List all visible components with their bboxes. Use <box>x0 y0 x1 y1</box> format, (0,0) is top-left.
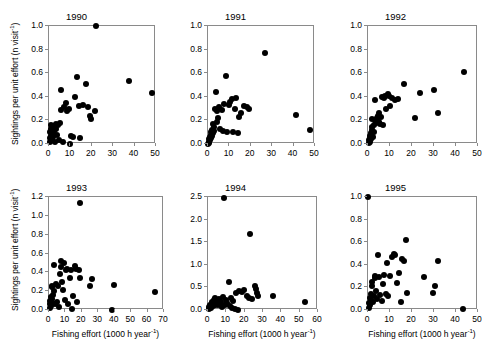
data-point <box>68 133 74 139</box>
data-point <box>212 295 218 301</box>
data-point <box>233 290 239 296</box>
data-point <box>391 251 397 257</box>
data-point <box>47 135 53 141</box>
data-point <box>57 271 63 277</box>
y-tick-label: 0.4 <box>337 259 362 269</box>
data-point <box>63 100 69 106</box>
data-point <box>77 135 83 141</box>
y-axis-title: Sightings per unit effort (n visit-1) <box>10 189 20 311</box>
data-point <box>389 254 395 260</box>
y-tick <box>364 49 367 50</box>
data-point <box>246 295 252 301</box>
plot-area-1994 <box>207 196 317 309</box>
panel-1990: 1990010203040500.00.20.40.60.81.0 <box>0 0 493 354</box>
data-point <box>149 90 155 96</box>
y-tick <box>45 196 48 197</box>
data-point <box>48 126 54 132</box>
y-tick-label: 1.0 <box>337 191 362 201</box>
data-point <box>227 99 233 105</box>
y-tick-label: 0.0 <box>337 138 362 148</box>
x-tick-label: 20 <box>406 314 415 324</box>
data-point <box>58 87 64 93</box>
y-tick <box>364 286 367 287</box>
data-point <box>403 237 409 243</box>
data-point <box>369 127 375 133</box>
data-point <box>211 124 217 130</box>
figure-container: 1990010203040500.00.20.40.60.81.01991010… <box>0 0 493 354</box>
y-tick-label: 0.6 <box>18 248 43 258</box>
data-point <box>54 132 60 138</box>
data-point <box>381 272 387 278</box>
y-tick-label: 0.5 <box>177 281 202 291</box>
data-point <box>209 127 215 133</box>
x-tick-label: 0 <box>46 314 51 324</box>
y-tick-label: 0.8 <box>18 44 43 54</box>
x-tick-label: 10 <box>224 148 233 158</box>
data-point <box>387 103 393 109</box>
panel-1993: 19930102030405060700.00.20.40.60.81.01.2 <box>0 0 493 354</box>
data-point <box>213 300 219 306</box>
data-point <box>371 293 377 299</box>
data-point <box>395 96 401 102</box>
y-tick <box>204 309 207 310</box>
data-point <box>51 128 57 134</box>
y-tick <box>364 196 367 197</box>
data-point <box>374 296 380 302</box>
data-point <box>48 303 54 309</box>
data-point <box>47 129 53 135</box>
data-point <box>80 102 86 108</box>
data-point <box>220 128 226 134</box>
y-tick <box>204 241 207 242</box>
data-point <box>368 130 374 136</box>
y-tick-label: 0.8 <box>337 214 362 224</box>
y-tick <box>364 241 367 242</box>
data-point <box>365 194 371 200</box>
x-tick-label: 50 <box>150 148 159 158</box>
data-point <box>241 103 247 109</box>
data-point <box>224 129 230 135</box>
data-point <box>373 120 379 126</box>
x-tick <box>367 143 368 146</box>
data-point <box>61 260 67 266</box>
x-tick-label: 40 <box>288 148 297 158</box>
x-tick <box>91 143 92 146</box>
y-tick-label: 2.5 <box>177 191 202 201</box>
y-tick-label: 0.8 <box>337 44 362 54</box>
data-point <box>435 110 441 116</box>
data-point <box>208 129 214 135</box>
data-point <box>83 81 89 87</box>
x-tick <box>225 309 226 312</box>
x-tick-label: 60 <box>312 314 321 324</box>
x-tick-label: 10 <box>221 314 230 324</box>
panel-title-1995: 1995 <box>385 182 406 193</box>
x-tick-label: 0 <box>46 148 51 158</box>
data-point <box>76 267 82 273</box>
y-tick-label: 1.2 <box>18 191 43 201</box>
x-tick <box>134 143 135 146</box>
y-tick <box>45 119 48 120</box>
y-tick-label: 0.8 <box>177 44 202 54</box>
data-point <box>212 302 218 308</box>
data-point <box>49 127 55 133</box>
data-point <box>209 299 215 305</box>
y-tick <box>364 219 367 220</box>
data-point <box>207 137 213 143</box>
x-tick <box>280 309 281 312</box>
y-tick <box>204 286 207 287</box>
data-point <box>432 283 438 289</box>
data-point <box>376 110 382 116</box>
y-tick-label: 1.0 <box>18 20 43 30</box>
data-point <box>401 258 407 264</box>
data-point <box>366 140 372 146</box>
x-tick <box>367 309 368 312</box>
x-tick-label: 50 <box>472 148 481 158</box>
data-point <box>50 123 56 129</box>
data-point <box>223 297 229 303</box>
data-point <box>235 130 241 136</box>
x-tick <box>130 309 131 312</box>
data-point <box>58 264 64 270</box>
data-point <box>380 122 386 128</box>
data-point <box>399 256 405 262</box>
data-point <box>368 297 374 303</box>
data-point <box>366 300 372 306</box>
